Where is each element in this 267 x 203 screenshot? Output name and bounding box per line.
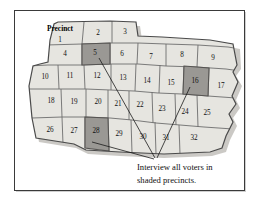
precinct-label-21: 21 — [114, 100, 122, 108]
precinct-label-2: 2 — [96, 29, 100, 37]
precinct-label-29: 29 — [115, 130, 123, 138]
precinct-label-22: 22 — [136, 101, 144, 109]
precinct-label-25: 25 — [203, 109, 211, 117]
caption-line-1: Interview all voters in — [137, 162, 213, 172]
precinct-label-15: 15 — [167, 79, 175, 87]
precinct-label-13: 13 — [119, 74, 127, 82]
precinct-label-7: 7 — [149, 53, 153, 61]
precinct-label-28: 28 — [92, 127, 100, 135]
precinct-map-svg: Precinct 1 2 3 4 5 6 7 8 9 10 11 12 13 1… — [14, 10, 245, 191]
precinct-label-8: 8 — [180, 51, 184, 59]
precinct-map: Precinct 1 2 3 4 5 6 7 8 9 10 11 12 13 1… — [14, 10, 245, 191]
precinct-label-4: 4 — [63, 50, 67, 58]
cluster-sampling-figure: Precinct 1 2 3 4 5 6 7 8 9 10 11 12 13 1… — [0, 0, 267, 203]
precinct-label-10: 10 — [41, 73, 49, 81]
precinct-label-14: 14 — [143, 77, 151, 85]
precinct-label-16: 16 — [191, 77, 199, 85]
caption-line-2: shaded precincts. — [137, 175, 196, 185]
precinct-label-9: 9 — [211, 54, 215, 62]
precinct-label-11: 11 — [67, 72, 74, 80]
precinct-label-18: 18 — [47, 97, 55, 105]
precinct-label-12: 12 — [93, 72, 101, 80]
precinct-label-17: 17 — [217, 82, 225, 90]
precinct-label-20: 20 — [94, 98, 102, 106]
precinct-label-27: 27 — [70, 127, 78, 135]
precinct-label-32: 32 — [190, 134, 198, 142]
precinct-label-5: 5 — [93, 49, 97, 57]
precinct-label-3: 3 — [123, 28, 127, 36]
precinct-heading-label: Precinct — [47, 24, 74, 33]
precinct-label-19: 19 — [70, 98, 78, 106]
precinct-label-6: 6 — [120, 50, 124, 58]
precinct-label-1: 1 — [58, 36, 62, 44]
precinct-label-26: 26 — [46, 126, 54, 134]
precinct-label-24: 24 — [181, 108, 189, 116]
precinct-label-23: 23 — [158, 105, 166, 113]
